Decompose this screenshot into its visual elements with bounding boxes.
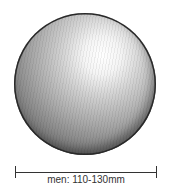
dimension-label: men: 110-130mm bbox=[0, 174, 172, 185]
dimension-line bbox=[15, 172, 157, 173]
sphere-illustration bbox=[14, 13, 156, 155]
